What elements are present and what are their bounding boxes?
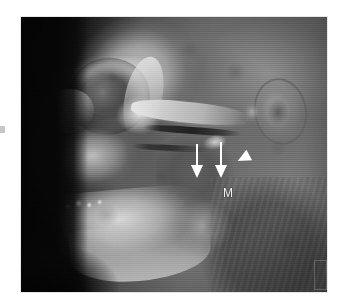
annotation-overlay: M: [21, 17, 327, 292]
figure-page: M: [0, 0, 344, 308]
arrow-right-icon: [215, 142, 227, 178]
arrow-left-icon: [191, 144, 203, 178]
arrow-shaft: [220, 142, 222, 165]
arrowhead-icon: [235, 150, 252, 167]
arrow-head: [215, 165, 227, 178]
arrow-shaft: [196, 144, 198, 165]
arrow-head: [191, 165, 203, 178]
ct-reconstruction-image: M: [21, 17, 327, 292]
left-edge-tick-icon: [0, 126, 5, 133]
annotation-label-m: M: [223, 187, 233, 199]
right-margin-rectangle-icon: [314, 260, 327, 290]
